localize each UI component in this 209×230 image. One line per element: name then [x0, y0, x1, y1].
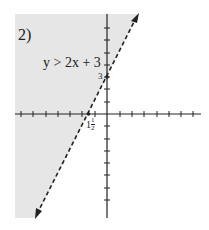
x-intercept-point [87, 112, 91, 116]
y-intercept-label: 3 [98, 71, 103, 81]
x-intercept-label: 1 1 2 [86, 117, 95, 132]
problem-number: 2) [18, 26, 31, 44]
graph [0, 0, 209, 230]
inequality-label: y > 2x + 3 [43, 55, 101, 71]
y-intercept-point [105, 75, 109, 79]
x-intercept-den: 2 [91, 125, 95, 132]
arrow-down-icon [35, 208, 42, 219]
